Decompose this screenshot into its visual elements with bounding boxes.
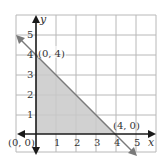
y-tick-5: 5: [27, 29, 33, 40]
x-axis-label: x: [148, 136, 155, 149]
point-label-4-0: (4, 0): [113, 120, 140, 131]
y-tick-2: 2: [27, 89, 33, 100]
y-tick-3: 3: [27, 69, 33, 80]
y-axis-arrow-up-icon: [32, 15, 40, 23]
point-label-0-4: (0, 4): [38, 48, 65, 59]
y-tick-4: 4: [27, 49, 33, 60]
x-tick-4: 4: [114, 137, 120, 148]
x-tick-3: 3: [94, 137, 100, 148]
x-tick-1: 1: [54, 137, 60, 148]
y-tick-1: 1: [27, 109, 33, 120]
y-tick-labels: 1 2 3 4 5: [27, 29, 33, 120]
y-axis-arrow-down-icon: [32, 147, 40, 155]
x-tick-2: 2: [74, 137, 80, 148]
point-label-0-0: (0, 0): [8, 137, 35, 148]
x-tick-5: 5: [134, 137, 140, 148]
y-axis-label: y: [39, 13, 47, 26]
graph: 1 2 3 4 5 1 2 3 4 5 x y (0, 4) (4, 0) (0…: [0, 0, 164, 164]
